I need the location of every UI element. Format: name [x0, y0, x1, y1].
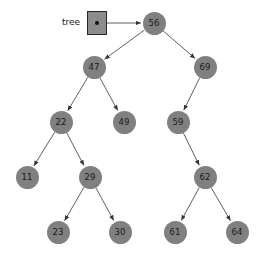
tree-node-label: 30: [114, 228, 125, 237]
tree-edge-47-49: [100, 78, 118, 111]
tree-node-label: 22: [55, 118, 66, 127]
pointer-variable-box: [87, 11, 107, 35]
tree-node-11: 11: [16, 166, 39, 189]
tree-edge-62-64: [211, 187, 230, 220]
tree-node-69: 69: [194, 56, 217, 79]
tree-node-56: 56: [143, 12, 166, 35]
tree-edge-29-30: [96, 188, 114, 221]
pointer-dot: [95, 21, 99, 25]
tree-node-label: 61: [169, 228, 180, 237]
tree-node-23: 23: [47, 221, 70, 244]
tree-node-59: 59: [167, 111, 190, 134]
tree-node-61: 61: [164, 221, 187, 244]
tree-node-label: 11: [21, 173, 32, 182]
tree-edge-22-29: [67, 133, 84, 166]
pointer-variable-label: tree: [62, 18, 80, 27]
tree-edge-62-61: [181, 188, 199, 221]
tree-node-label: 56: [148, 19, 159, 28]
tree-node-62: 62: [194, 166, 217, 189]
tree-edge-56-69: [163, 31, 195, 59]
tree-node-label: 29: [84, 173, 95, 182]
tree-node-label: 23: [52, 228, 63, 237]
tree-node-22: 22: [50, 111, 73, 134]
tree-node-label: 59: [172, 118, 183, 127]
tree-edge-29-23: [65, 187, 84, 220]
tree-node-label: 49: [118, 118, 129, 127]
tree-edge-47-22: [68, 77, 88, 111]
tree-node-30: 30: [109, 221, 132, 244]
tree-edge-59-62: [183, 133, 199, 166]
tree-node-label: 62: [199, 173, 210, 182]
tree-node-29: 29: [79, 166, 102, 189]
tree-node-label: 47: [88, 63, 99, 72]
tree-node-49: 49: [113, 111, 136, 134]
bst-diagram-canvas: tree 56476922495911296223306164: [0, 0, 261, 256]
tree-node-64: 64: [226, 221, 249, 244]
tree-edge-69-59: [184, 78, 200, 111]
tree-edge-22-11: [34, 132, 55, 166]
tree-node-label: 64: [231, 228, 242, 237]
tree-node-label: 69: [199, 63, 210, 72]
tree-edge-56-47: [104, 30, 144, 59]
tree-node-47: 47: [83, 56, 106, 79]
